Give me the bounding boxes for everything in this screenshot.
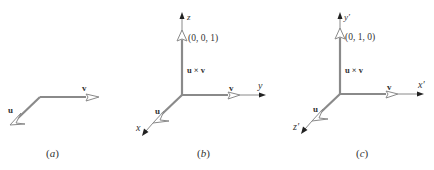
x-axis-line [146, 123, 153, 131]
vector-u-line [321, 94, 340, 112]
axis-label-x: x [135, 122, 141, 133]
label-u: u [313, 104, 318, 114]
panel-c: y′ (0, 1, 0) u × v v x′ u z′ (c) [292, 12, 425, 160]
panel-a: u v (a) [8, 83, 99, 160]
y-axis-arrowhead-icon [259, 93, 266, 98]
vector-v-arrowhead-icon [86, 94, 99, 101]
caption-b: (b) [197, 147, 210, 160]
cross-vector-arrowhead-icon [177, 30, 187, 41]
axis-label-y-prime: y′ [343, 12, 351, 22]
label-u: u [155, 106, 160, 116]
panel-b: z (0, 0, 1) u × v v y u x (b) [135, 12, 266, 160]
cross-product-label: u × v [345, 65, 364, 75]
label-u: u [8, 105, 13, 115]
caption-c: (c) [356, 147, 369, 160]
label-v: v [82, 83, 87, 93]
x-prime-axis-arrowhead-icon [417, 92, 424, 97]
vector-v-arrowhead-icon [228, 92, 240, 99]
label-v: v [387, 82, 392, 92]
cross-point-label: (0, 1, 0) [345, 32, 375, 43]
axis-label-z-prime: z′ [292, 121, 300, 132]
axis-label-x-prime: x′ [417, 79, 425, 90]
z-prime-axis-line [305, 121, 312, 129]
vector-u-line [17, 97, 40, 119]
caption-a: (a) [46, 147, 59, 160]
axis-label-z: z [186, 12, 191, 22]
y-prime-axis-arrowhead-icon [338, 12, 343, 19]
z-axis-arrowhead-icon [180, 12, 185, 19]
axis-label-y: y [257, 80, 263, 91]
cross-product-figure: u v (a) z (0, 0, 1) u × v v y u x (b) [0, 0, 434, 170]
cross-product-label: u × v [187, 65, 206, 75]
vector-v-arrowhead-icon [386, 91, 398, 98]
cross-vector-arrowhead-icon [335, 28, 345, 39]
vector-u-line [162, 95, 182, 114]
cross-point-label: (0, 0, 1) [188, 33, 218, 44]
label-v: v [229, 83, 234, 93]
